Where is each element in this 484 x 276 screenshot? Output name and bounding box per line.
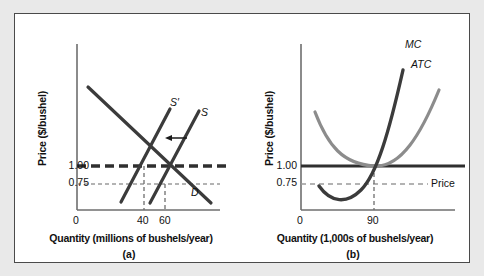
atc-label: ATC bbox=[411, 58, 431, 70]
figure-panel: Price ($/bushel) 1.00 0.75 0 40 60 S′ S … bbox=[14, 13, 470, 263]
panel-b-xtick-90: 90 bbox=[367, 214, 379, 226]
panel-a-xtick-0: 0 bbox=[73, 214, 79, 226]
panel-a-y-axis-title: Price ($/bushel) bbox=[36, 91, 48, 166]
panel-b-x-axis-title: Quantity (1,000s of bushels/year) bbox=[241, 232, 469, 244]
supply-shifted-label: S′ bbox=[170, 96, 179, 108]
panel-a-xtick-40: 40 bbox=[137, 214, 149, 226]
panel-b-ytick-100: 1.00 bbox=[259, 159, 297, 171]
chart-panel-b: Price ($/bushel) 1.00 0.75 0 90 MC ATC P… bbox=[243, 14, 471, 262]
panel-a-x-axis-title: Quantity (millions of bushels/year) bbox=[17, 232, 245, 244]
mc-curve bbox=[319, 70, 403, 200]
chart-panel-a: Price ($/bushel) 1.00 0.75 0 40 60 S′ S … bbox=[15, 14, 243, 262]
panel-b-xtick-0: 0 bbox=[297, 214, 303, 226]
panel-b-plot bbox=[243, 14, 471, 264]
panel-a-caption: (a) bbox=[15, 248, 243, 260]
panel-b-ytick-075: 0.75 bbox=[259, 176, 297, 188]
panel-a-plot bbox=[15, 14, 243, 264]
panel-b-y-axis-title: Price ($/bushel) bbox=[263, 91, 275, 166]
price-line-label: Price bbox=[431, 177, 455, 189]
supply-label: S bbox=[201, 106, 208, 118]
panel-a-xtick-60: 60 bbox=[159, 214, 171, 226]
panel-b-caption: (b) bbox=[239, 248, 467, 260]
mc-label: MC bbox=[405, 38, 421, 50]
atc-curve bbox=[315, 90, 439, 166]
demand-label: D bbox=[191, 186, 199, 198]
panel-a-ytick-075: 0.75 bbox=[55, 176, 89, 188]
panel-a-ytick-100: 1.00 bbox=[55, 159, 89, 171]
